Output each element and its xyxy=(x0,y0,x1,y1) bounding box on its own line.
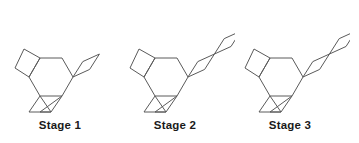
square-shape xyxy=(15,49,40,77)
stage-label-2: Stage 2 xyxy=(115,119,235,131)
stage-group-1: Stage 1 xyxy=(0,0,120,143)
triangle-right-shape xyxy=(155,96,177,112)
rhombus-shape-1 xyxy=(73,54,99,77)
stage-label-1: Stage 1 xyxy=(0,119,120,131)
triangle-right-shape xyxy=(40,96,62,112)
rhombus-shape-1 xyxy=(303,54,329,77)
square-shape xyxy=(245,49,270,77)
rhombus-shape-2 xyxy=(329,31,350,54)
stage-drawing-2 xyxy=(115,0,235,120)
square-shape xyxy=(130,49,155,77)
hexagon-shape xyxy=(29,58,73,96)
triangle-right-shape xyxy=(270,96,292,112)
triangle-left-shape xyxy=(259,96,281,112)
stage-label-3: Stage 3 xyxy=(230,119,350,131)
stage-group-3: Stage 3 xyxy=(230,0,350,143)
triangle-left-shape xyxy=(144,96,166,112)
rhombus-shape-1 xyxy=(188,54,214,77)
stage-drawing-1 xyxy=(0,0,120,120)
hexagon-shape xyxy=(144,58,188,96)
stage-group-2: Stage 2 xyxy=(115,0,235,143)
hexagon-shape xyxy=(259,58,303,96)
stage-drawing-3 xyxy=(230,0,350,120)
triangle-left-shape xyxy=(29,96,51,112)
pattern-sequence-figure: Stage 1Stage 2Stage 3 xyxy=(0,0,359,143)
